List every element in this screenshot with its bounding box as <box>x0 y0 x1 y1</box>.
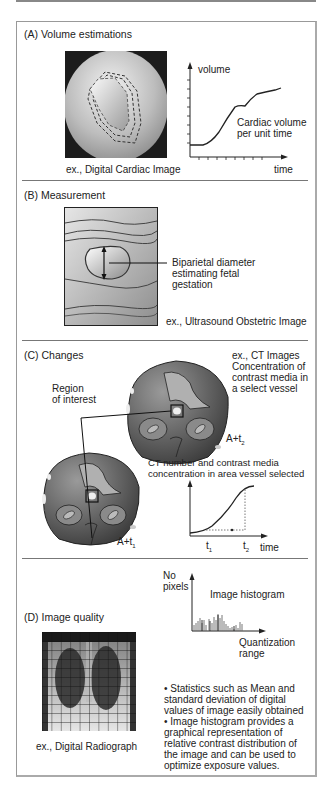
note-line-1: • Statistics such as Mean and <box>164 683 295 694</box>
note-line-7: the image and can be used to <box>164 749 296 760</box>
histogram-x-label-line2: range <box>239 648 265 659</box>
histogram-x-label-line1: Quantization <box>239 637 295 648</box>
note-line-5: graphical representation of <box>164 727 282 738</box>
histogram-y-label-line2: pixels <box>163 581 189 592</box>
note-line-3: values of image easily obtained <box>164 705 304 716</box>
section-d-image-caption: ex., Digital Radiograph <box>36 741 137 752</box>
note-line-4: • Image histogram provides a <box>164 716 294 727</box>
note-line-6: relative contrast distribution of <box>164 738 297 749</box>
tick-t1: t1 <box>206 540 212 556</box>
image-histogram <box>188 571 270 635</box>
note-line-2: standard deviation of digital <box>164 694 286 705</box>
chest-radiograph <box>42 632 136 731</box>
contrast-concentration-graph <box>186 478 271 540</box>
tick-t1-sub: 1 <box>209 547 212 553</box>
histogram-y-label-line1: No <box>163 570 176 581</box>
separator-c-d <box>22 558 308 559</box>
note-line-8: optimize exposure values. <box>164 760 280 771</box>
section-d-title: (D) Image quality <box>24 612 104 623</box>
time-axis-label-c: time <box>260 542 279 553</box>
ct-graph-title-line1: CT number and contrast media <box>148 458 279 469</box>
tick-t2-sub: 2 <box>246 547 249 553</box>
tick-t2: t2 <box>243 540 249 556</box>
